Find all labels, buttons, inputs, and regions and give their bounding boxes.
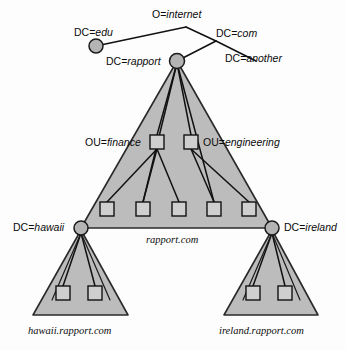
label-ou-engineering-value: engineering [225, 136, 280, 148]
label-o-internet-value: internet [166, 8, 201, 20]
triangle-ireland-rapport-com [224, 230, 318, 315]
label-ou-finance: OU=finance [85, 137, 141, 148]
label-domain-hawaii-rapport-com: hawaii.rapport.com [28, 326, 111, 337]
node-dc-rapport[interactable] [170, 54, 185, 69]
node-leaf-2[interactable] [136, 202, 150, 216]
edge-internet-com [186, 27, 216, 41]
triangle-hawaii-rapport-com [33, 230, 128, 315]
node-ireland-leaf-1[interactable] [246, 286, 260, 300]
label-dc-edu: DC=edu [74, 27, 113, 38]
node-ou-engineering[interactable] [184, 135, 198, 149]
label-domain-rapport-com: rapport.com [146, 235, 198, 246]
node-dc-hawaii[interactable] [74, 221, 88, 235]
tree-graphic [0, 0, 345, 350]
label-dc-edu-value: edu [95, 26, 113, 38]
node-leaf-1[interactable] [100, 202, 114, 216]
node-hawaii-leaf-2[interactable] [88, 286, 102, 300]
node-ireland-leaf-2[interactable] [278, 286, 292, 300]
label-dc-rapport: DC=rapport [106, 56, 161, 67]
label-dc-ireland-value: ireland [305, 221, 337, 233]
node-ou-finance[interactable] [150, 135, 164, 149]
node-leaf-5[interactable] [242, 202, 256, 216]
label-o-internet: O=internet [152, 9, 201, 20]
node-dc-edu[interactable] [89, 39, 103, 53]
label-ou-finance-value: finance [107, 136, 141, 148]
node-leaf-4[interactable] [207, 202, 221, 216]
label-dc-hawaii: DC=hawaii [13, 222, 64, 233]
label-ou-engineering: OU=engineering [203, 137, 280, 148]
label-dc-rapport-value: rapport [127, 55, 160, 67]
label-dc-another: DC=another [225, 53, 282, 64]
ldap-tree-diagram: O=internet DC=edu DC=com DC=another DC=r… [0, 0, 345, 350]
node-hawaii-leaf-1[interactable] [56, 286, 70, 300]
label-domain-ireland-rapport-com: ireland.rapport.com [219, 326, 304, 337]
node-leaf-3[interactable] [172, 202, 186, 216]
node-dc-ireland[interactable] [265, 221, 279, 235]
label-dc-hawaii-value: hawaii [34, 221, 64, 233]
label-dc-com: DC=com [216, 28, 257, 39]
label-dc-another-value: another [246, 52, 282, 64]
label-dc-com-value: com [237, 27, 257, 39]
label-dc-ireland: DC=ireland [284, 222, 337, 233]
